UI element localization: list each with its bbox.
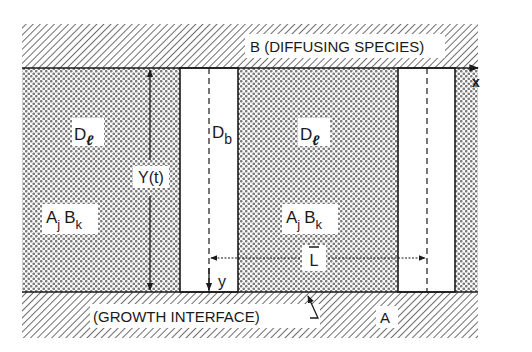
top-band-label: B (DIFFUSING SPECIES) (250, 38, 424, 55)
phase-right-a: A (286, 208, 298, 227)
diffusivity-lattice-right: D (300, 125, 312, 144)
phase-left-a: A (46, 208, 58, 227)
x-axis-label: x (472, 74, 480, 90)
bottom-band-label: A (380, 309, 390, 326)
y-axis-label: y (218, 273, 226, 290)
diffusivity-boundary-sub: b (224, 131, 232, 147)
diffusivity-lattice-left: D (74, 125, 86, 144)
diffusivity-lattice-left-sub: ℓ (86, 132, 94, 148)
diffusivity-lattice-right-sub: ℓ (312, 132, 320, 148)
diffusivity-boundary: D (212, 123, 224, 142)
thickness-label: Y(t) (138, 169, 164, 186)
growth-interface-label: (GROWTH INTERFACE) (93, 308, 260, 325)
spacing-label: L (310, 252, 319, 269)
growth-diagram: Y(t) y x L B (DIFFUSING SPECIES) (GROWTH… (0, 0, 532, 352)
